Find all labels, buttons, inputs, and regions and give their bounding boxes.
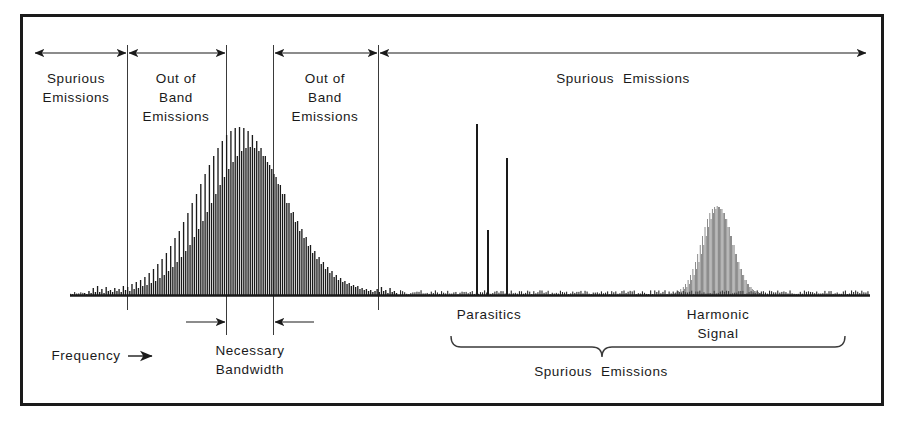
spectrum-bar [250,147,251,295]
spurious-emissions-brace [451,336,845,357]
spectrum-bar [333,277,334,295]
label-oob-left-line2: Band [159,90,193,105]
label-harmonic-line2: Signal [697,326,738,341]
spectrum-bar [194,237,195,295]
spectrum-bar [275,177,276,295]
spectrum-bar [224,177,225,295]
spectrum-bar [366,289,367,295]
figure-border [22,16,883,405]
spectrum-bar [733,245,734,295]
spectrum-bar [273,174,274,295]
spectrum-bar [355,287,356,295]
spectrum-bar [241,151,242,295]
spectrum-bar [127,287,128,295]
spectrum-bar [730,236,731,295]
spectrum-bar [711,219,712,295]
spectrum-bar [722,209,723,295]
spectrum-bar [168,271,169,295]
spectrum-bar [736,254,737,295]
parasitic-spike [506,158,508,295]
spectrum-bar [211,203,212,295]
spectrum-bar [749,287,750,295]
spectrum-bar [166,253,167,295]
spectrum-bar [357,286,358,295]
spectrum-bar [327,267,328,295]
spectrum-bar [142,286,143,295]
spectrum-bar [213,156,214,295]
spectrum-bar [693,269,694,295]
spectrum-bar [691,280,692,295]
label-harmonic-line1: Harmonic [687,307,750,322]
spectrum-bar [707,219,708,295]
spectrum-bar [705,227,706,295]
parasitic-spikes [476,124,508,295]
spectrum-bar [202,221,203,295]
main-spectrum-bars [84,127,397,295]
label-spurious-left-line1: Spurious [47,71,105,86]
parasitic-spike [487,230,489,295]
spectrum-bar [680,289,681,295]
spectrum-bar [747,284,748,295]
spectrum-bar [731,236,732,295]
spectrum-bar [230,131,231,295]
label-necessary-line2: Bandwidth [216,362,284,377]
spectrum-bar [155,281,156,295]
parasitic-spike [476,124,478,295]
spectrum-bar [133,289,134,295]
spectrum-bar [342,282,343,295]
spectrum-bar [284,194,285,295]
spectrum-bar [192,203,193,295]
spectrum-bar [344,281,345,295]
spectrum-bar [146,285,147,295]
spectrum-bar [209,165,210,295]
spectrum-bar [714,207,715,295]
label-oob-left-line1: Out of [156,71,196,86]
spectrum-bar [278,184,279,295]
spectrum-bar [97,286,98,295]
spectrum-bar [153,269,154,295]
spectrum-bar [688,280,689,295]
spectrum-bar [245,148,246,295]
label-parasitics: Parasitics [457,307,522,322]
spectrum-bar [232,162,233,295]
spectrum-bar [325,269,326,295]
spectrum-bar [710,213,711,295]
spectrum-bar [349,283,350,295]
label-oob-right-line1: Out of [305,71,345,86]
spectrum-bar [689,284,690,295]
spectrum-bar [93,288,94,295]
spectrum-bar [381,287,382,295]
spectrum-bar [149,273,150,295]
spectrum-bar [321,264,322,295]
spectrum-bar [751,287,752,295]
spectrum-bar [183,222,184,295]
spectrum-bar [314,251,315,295]
spectrum-bar [299,231,300,295]
spectrum-diagram: Spurious Emissions Out of Band Emissions… [0,0,915,424]
spectrum-bar [131,284,132,295]
spectrum-bar [114,288,115,295]
spectrum-bar [340,278,341,295]
label-spurious-top-right: Spurious Emissions [556,71,690,86]
spectrum-bar [695,262,696,295]
spectrum-bar [260,148,261,295]
spectrum-bar [703,245,704,295]
spectrum-bar [217,148,218,295]
spectrum-bar [351,286,352,295]
harmonic-signal-bars [672,206,763,295]
spectrum-bar [361,288,362,295]
spectrum-bar [323,262,324,295]
spectrum-bar [742,275,743,295]
spectrum-bar [336,275,337,295]
spectrum-bar [718,207,719,295]
spectrum-bar [389,288,390,295]
spectrum-bar [700,245,701,295]
spectrum-bar [745,280,746,295]
spectrum-bar [179,231,180,295]
spectrum-bar [235,128,236,295]
spectrum-bar [189,245,190,295]
spectrum-bar [136,282,137,295]
spectrum-bar [713,213,714,295]
spectrum-bar [185,251,186,295]
spectrum-bar [258,151,259,295]
